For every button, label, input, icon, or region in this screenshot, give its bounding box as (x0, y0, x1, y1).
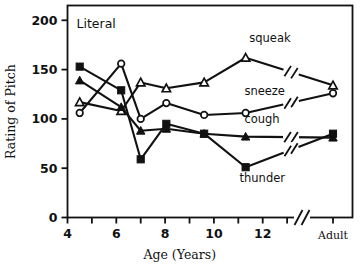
x-axis-title: Age (Years) (142, 247, 216, 262)
data-point-marker (76, 76, 84, 84)
x-axis-tick-label: 10 (205, 226, 223, 241)
data-point-marker (137, 116, 144, 123)
data-point-marker (137, 78, 145, 86)
data-point-marker (329, 130, 336, 137)
data-point-marker (76, 63, 83, 70)
x-axis-tick-label: 6 (112, 226, 121, 241)
series-break-mask (281, 63, 300, 81)
data-point-marker (137, 156, 144, 163)
data-point-marker (76, 98, 84, 106)
x-axis-tick-label: 8 (161, 226, 170, 241)
literal-pitch-rating-line-chart: 0501001502004681012Adultsqueaksneezecoug… (0, 0, 364, 271)
data-point-marker (163, 100, 170, 107)
y-axis-tick-label: 150 (31, 62, 57, 77)
series-label-squeak: squeak (249, 31, 291, 45)
y-axis-tick-label: 100 (31, 111, 57, 126)
x-axis-tick-label: 4 (63, 226, 72, 241)
data-point-marker (76, 110, 83, 117)
data-point-marker (329, 81, 337, 89)
chart-figure: 0501001502004681012Adultsqueaksneezecoug… (0, 0, 364, 271)
y-axis-tick-label: 50 (40, 161, 58, 176)
data-point-marker (118, 87, 125, 94)
plot-frame (68, 6, 353, 218)
data-point-marker (201, 130, 208, 137)
data-point-marker (163, 120, 170, 127)
data-point-marker (162, 84, 170, 92)
y-axis-title: Rating of Pitch (3, 64, 18, 159)
data-point-marker (201, 112, 208, 119)
data-point-marker (330, 90, 337, 97)
x-axis-tick-label-adult: Adult (317, 229, 349, 242)
data-point-marker (242, 164, 249, 171)
series-label-sneeze: sneeze (244, 84, 285, 98)
data-point-marker (118, 60, 125, 67)
x-axis-tick-label: 12 (254, 226, 271, 241)
panel-title: Literal (77, 16, 116, 31)
y-axis-tick-label: 200 (31, 13, 57, 28)
series-label-cough: cough (244, 112, 279, 126)
y-axis-tick-label: 0 (49, 210, 58, 225)
data-point-marker (241, 54, 249, 62)
data-point-marker (200, 78, 208, 86)
series-label-thunder: thunder (240, 171, 286, 185)
